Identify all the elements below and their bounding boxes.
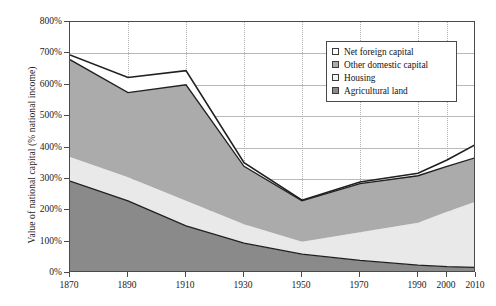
x-axis-tick [446,272,447,277]
x-axis-tick-label: 1950 [292,280,311,290]
legend-swatch-icon [332,87,339,94]
legend-item-label: Agricultural land [344,86,408,96]
y-axis-tick-label: 300% [40,173,62,183]
x-axis-tick-label: 1930 [234,280,253,290]
legend-swatch-icon [332,74,339,81]
x-axis-tick [359,272,360,277]
y-axis-tick-label: 400% [40,142,62,152]
x-axis-tick [69,272,70,277]
legend-swatch-icon [332,61,339,68]
y-axis-tick-label: 800% [40,16,62,26]
x-axis-tick-label: 1870 [60,280,79,290]
legend-item[interactable]: Net foreign capital [332,45,451,58]
x-axis-tick [301,272,302,277]
y-axis-tick-label: 600% [40,79,62,89]
legend-item[interactable]: Agricultural land [332,84,451,97]
legend-swatch-icon [332,48,339,55]
x-axis-tick-label: 1890 [118,280,137,290]
x-axis-tick-label: 2000 [437,280,456,290]
legend-item[interactable]: Housing [332,71,451,84]
y-axis-tick-label: 200% [40,204,62,214]
y-axis-tick-label: 500% [40,110,62,120]
x-axis-tick [243,272,244,277]
legend-item-label: Net foreign capital [344,47,414,57]
x-axis-tick [185,272,186,277]
y-axis-tick-label: 100% [40,236,62,246]
x-axis-tick-label: 1970 [350,280,369,290]
x-axis-tick [417,272,418,277]
legend-item[interactable]: Other domestic capital [332,58,451,71]
x-axis-tick [127,272,128,277]
legend-item-label: Other domestic capital [344,60,428,70]
chart-root: Value of national capital (% national in… [0,0,496,306]
chart-legend: Net foreign capitalOther domestic capita… [326,41,457,102]
y-axis-title: Value of national capital (% national in… [27,35,37,275]
x-axis-tick-label: 1990 [408,280,427,290]
x-axis-tick-label: 1910 [176,280,195,290]
legend-item-label: Housing [344,73,376,83]
x-axis-tick [475,272,476,277]
y-axis-tick-label: 700% [40,47,62,57]
y-axis-tick-label: 0% [49,267,62,277]
x-axis-tick-label: 2010 [466,280,485,290]
